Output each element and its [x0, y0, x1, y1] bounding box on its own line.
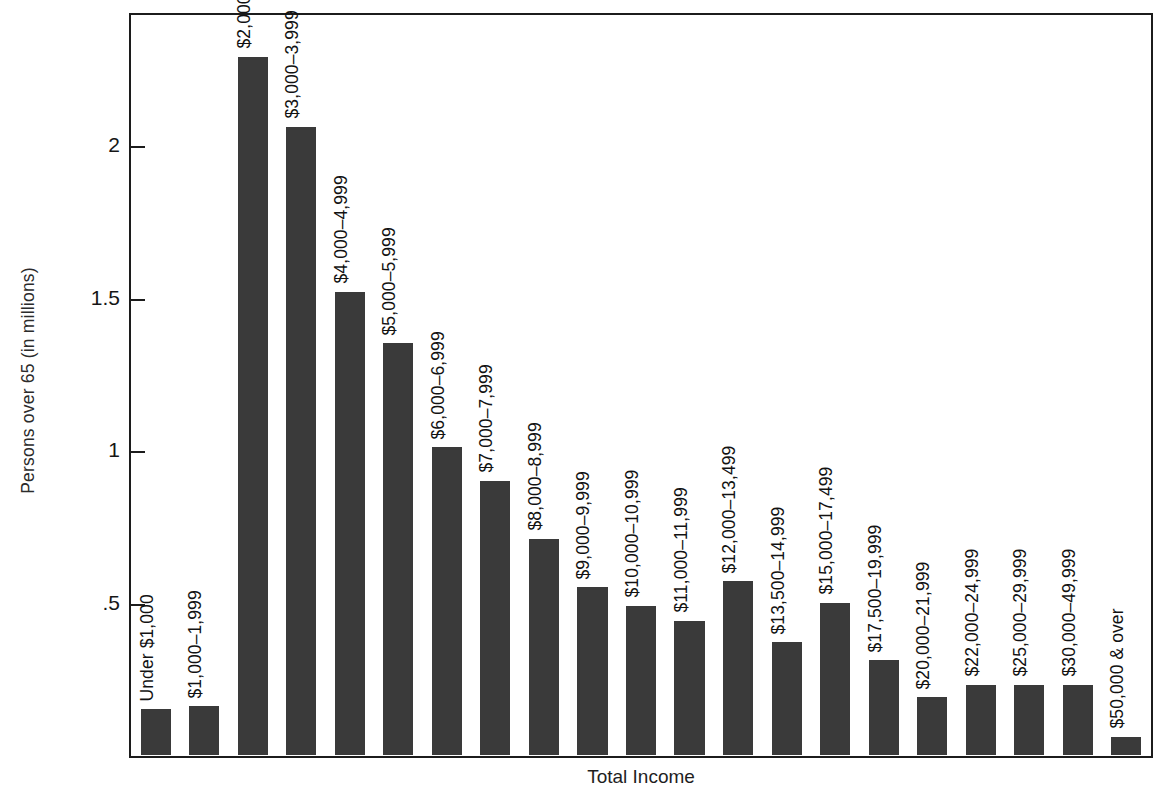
bar-group[interactable]: $11,000–11,999	[674, 15, 704, 755]
bar-category-label: $3,000–3,999	[284, 11, 302, 119]
bar-group[interactable]: $12,000–13,499	[723, 15, 753, 755]
bar-category-label: $50,000 & over	[1109, 609, 1127, 729]
bar[interactable]	[189, 706, 219, 755]
bar-group[interactable]: $15,000–17,499	[820, 15, 850, 755]
bar-group[interactable]: Under $1,000	[141, 15, 171, 755]
bar[interactable]	[577, 587, 607, 755]
bar-group[interactable]: $9,000–9,999	[577, 15, 607, 755]
bar-group[interactable]: $50,000 & over	[1111, 15, 1141, 755]
bar-category-label: $30,000–49,999	[1060, 549, 1078, 677]
bar[interactable]	[383, 343, 413, 755]
bar[interactable]	[966, 685, 996, 755]
bar[interactable]	[723, 581, 753, 755]
bar[interactable]	[674, 621, 704, 755]
bar-category-label: Under $1,000	[138, 594, 156, 701]
bar-category-label: $6,000–6,999	[429, 331, 447, 439]
bar[interactable]	[480, 481, 510, 755]
bar[interactable]	[141, 709, 171, 755]
bar-category-label: $5,000–5,999	[381, 227, 399, 335]
bar-category-label: $22,000–24,999	[963, 549, 981, 677]
y-axis-title-text: Persons over 65 (in millions)	[18, 267, 39, 494]
bar[interactable]	[286, 127, 316, 755]
bar-chart-figure: Persons over 65 (in millions) .511.52 Un…	[0, 0, 1167, 803]
bar-group[interactable]: $7,000–7,999	[480, 15, 510, 755]
bar-category-label: $8,000–8,999	[526, 422, 544, 530]
y-tick-label: .5	[102, 592, 120, 613]
bar[interactable]	[1014, 685, 1044, 755]
bar-group[interactable]: $2,000–2,999	[238, 15, 268, 755]
bar-group[interactable]: $8,000–8,999	[529, 15, 559, 755]
bar[interactable]	[1063, 685, 1093, 755]
bar-category-label: $10,000–10,999	[623, 470, 641, 598]
bar-category-label: $1,000–1,999	[187, 590, 205, 698]
bar[interactable]	[1111, 737, 1141, 755]
bar-group[interactable]: $25,000–29,999	[1014, 15, 1044, 755]
bar-group[interactable]: $5,000–5,999	[383, 15, 413, 755]
bar-group[interactable]: $20,000–21,999	[917, 15, 947, 755]
y-axis-title: Persons over 65 (in millions)	[0, 0, 56, 760]
bar-group[interactable]: $13,500–14,999	[772, 15, 802, 755]
bar[interactable]	[335, 292, 365, 756]
bar-group[interactable]: $17,500–19,999	[869, 15, 899, 755]
x-axis-title: Total Income	[129, 766, 1153, 788]
bar-group[interactable]: $1,000–1,999	[189, 15, 219, 755]
bar-group[interactable]: $10,000–10,999	[626, 15, 656, 755]
y-tick-label: 2	[108, 134, 120, 155]
y-tick-label: 1.5	[91, 287, 120, 308]
bar-category-label: $4,000–4,999	[332, 175, 350, 283]
bar-group[interactable]: $4,000–4,999	[335, 15, 365, 755]
y-tick-label: 1	[108, 439, 120, 460]
bar-category-label: $9,000–9,999	[575, 471, 593, 579]
bar[interactable]	[917, 697, 947, 755]
bar-category-label: $2,000–2,999	[235, 0, 253, 49]
bar-group[interactable]: $6,000–6,999	[432, 15, 462, 755]
bar-category-label: $17,500–19,999	[866, 525, 884, 653]
bar[interactable]	[238, 57, 268, 755]
bar[interactable]	[869, 660, 899, 755]
bar-category-label: $12,000–13,499	[721, 445, 739, 573]
bar[interactable]	[432, 447, 462, 755]
bar[interactable]	[529, 539, 559, 756]
bar-group[interactable]: $3,000–3,999	[286, 15, 316, 755]
bar-category-label: $20,000–21,999	[915, 561, 933, 689]
bar-group[interactable]: $22,000–24,999	[966, 15, 996, 755]
bar-category-label: $13,500–14,999	[769, 506, 787, 634]
bar-category-label: $25,000–29,999	[1012, 549, 1030, 677]
bar-category-label: $15,000–17,499	[818, 467, 836, 595]
bars-container: Under $1,000$1,000–1,999$2,000–2,999$3,0…	[132, 15, 1151, 755]
bar[interactable]	[626, 606, 656, 755]
bar-category-label: $7,000–7,999	[478, 364, 496, 472]
bar-category-label: $11,000–11,999	[672, 488, 690, 613]
bar[interactable]	[820, 603, 850, 755]
bar-group[interactable]: $30,000–49,999	[1063, 15, 1093, 755]
bar[interactable]	[772, 642, 802, 755]
